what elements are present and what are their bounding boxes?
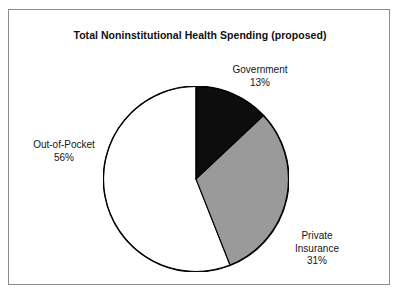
slice-label-private-insurance-name-line1: Private (301, 230, 332, 241)
pie-svg (103, 86, 289, 272)
slice-label-government-name: Government (232, 64, 287, 75)
slice-label-government-percent: 13% (207, 77, 313, 90)
slice-label-private-insurance-name-line2: Insurance (268, 243, 366, 256)
pie-chart-graphic (103, 86, 289, 272)
pie-chart-figure: Total Noninstitutional Health Spending (… (0, 0, 400, 293)
slice-label-out-of-pocket: Out-of-Pocket 56% (8, 139, 120, 164)
slice-label-private-insurance-percent: 31% (268, 255, 366, 268)
slice-label-out-of-pocket-name: Out-of-Pocket (33, 139, 95, 150)
chart-title: Total Noninstitutional Health Spending (… (0, 29, 400, 41)
slice-label-government: Government 13% (207, 64, 313, 89)
slice-label-out-of-pocket-percent: 56% (8, 152, 120, 165)
slice-label-private-insurance: Private Insurance 31% (268, 230, 366, 268)
